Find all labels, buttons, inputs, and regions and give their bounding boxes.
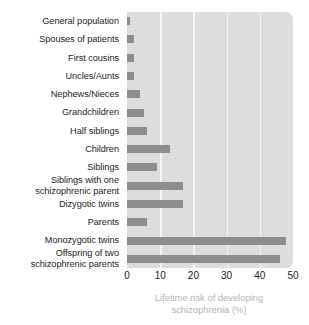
- category-label: Parents: [0, 217, 119, 227]
- category-label-line: Monozygotic twins: [45, 235, 119, 245]
- chart-figure: General populationSpouses of patientsFir…: [0, 0, 309, 325]
- gridline-10: [160, 12, 161, 268]
- category-label-line: Siblings: [87, 162, 119, 172]
- category-label: Spouses of patients: [0, 34, 119, 44]
- category-label-line: Children: [85, 144, 119, 154]
- category-label-line: Offspring of two: [56, 248, 119, 258]
- category-label-line: General population: [42, 16, 119, 26]
- category-label: Half siblings: [0, 126, 119, 136]
- category-label: Grandchildren: [0, 107, 119, 117]
- bar: [127, 17, 130, 25]
- category-label-line: Uncles/Aunts: [65, 71, 119, 81]
- x-axis: 01020304050: [127, 270, 293, 284]
- bar: [127, 218, 147, 226]
- category-label: Dizygotic twins: [0, 199, 119, 209]
- bar: [127, 127, 147, 135]
- x-tick-label-10: 10: [155, 270, 166, 282]
- category-label-line: Parents: [88, 217, 119, 227]
- bar: [127, 182, 183, 190]
- category-label-line: schizophrenic parents: [0, 259, 119, 269]
- category-label: Siblings with oneschizophrenic parent: [0, 175, 119, 196]
- bar: [127, 90, 140, 98]
- category-label-line: First cousins: [68, 53, 119, 63]
- category-label: Monozygotic twins: [0, 235, 119, 245]
- category-label: Nephews/Nieces: [0, 89, 119, 99]
- x-tick-label-40: 40: [254, 270, 265, 282]
- plot-area: [127, 12, 293, 268]
- x-tick-label-50: 50: [287, 270, 298, 282]
- bar: [127, 72, 134, 80]
- bar: [127, 237, 286, 245]
- category-label: First cousins: [0, 53, 119, 63]
- category-label: General population: [0, 16, 119, 26]
- x-axis-title: Lifetime risk of developingschizophrenia…: [118, 292, 300, 315]
- category-label-line: Grandchildren: [62, 107, 119, 117]
- bar: [127, 145, 170, 153]
- bar: [127, 109, 144, 117]
- category-label: Children: [0, 144, 119, 154]
- category-label-line: Siblings with one: [51, 175, 119, 185]
- x-axis-title-line: schizophrenia (%): [118, 304, 300, 316]
- bar: [127, 255, 280, 263]
- x-tick-label-20: 20: [188, 270, 199, 282]
- bar: [127, 54, 134, 62]
- bar: [127, 200, 183, 208]
- x-tick-label-0: 0: [124, 270, 130, 282]
- category-label: Siblings: [0, 162, 119, 172]
- gridline-30: [227, 12, 228, 268]
- category-label: Offspring of twoschizophrenic parents: [0, 248, 119, 269]
- category-label: Uncles/Aunts: [0, 71, 119, 81]
- category-label-line: schizophrenic parent: [0, 186, 119, 196]
- category-axis: General populationSpouses of patientsFir…: [0, 12, 123, 268]
- bar: [127, 35, 134, 43]
- bar: [127, 163, 157, 171]
- category-label-line: Nephews/Nieces: [51, 89, 119, 99]
- category-label-line: Spouses of patients: [39, 34, 119, 44]
- gridline-40: [260, 12, 261, 268]
- gridline-20: [193, 12, 194, 268]
- x-tick-label-30: 30: [221, 270, 232, 282]
- category-label-line: Half siblings: [70, 126, 119, 136]
- category-label-line: Dizygotic twins: [59, 199, 119, 209]
- x-axis-title-line: Lifetime risk of developing: [155, 292, 263, 303]
